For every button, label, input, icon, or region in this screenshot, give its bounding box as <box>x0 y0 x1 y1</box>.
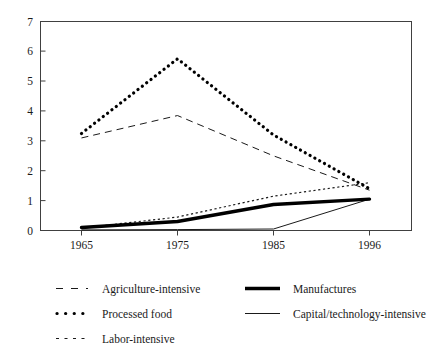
xtick-label-1975: 1975 <box>166 239 189 251</box>
ytick-label-5: 5 <box>27 75 33 87</box>
legend-label-manufactures: Manufactures <box>293 283 357 295</box>
series-processed-food <box>82 59 370 189</box>
series-labor-intensive <box>82 183 370 228</box>
x-axis-ticks <box>82 231 370 236</box>
ytick-label-1: 1 <box>27 195 33 207</box>
xtick-label-1996: 1996 <box>358 239 381 251</box>
line-chart: 0 1 2 3 4 5 6 7 1965 1975 1985 1996 <box>0 0 437 354</box>
xtick-label-1965: 1965 <box>70 239 93 251</box>
legend-item-manufactures: Manufactures <box>245 283 357 295</box>
series-agriculture-intensive <box>82 116 370 191</box>
ytick-label-2: 2 <box>27 165 33 177</box>
x-axis-labels: 1965 1975 1985 1996 <box>70 239 381 251</box>
legend-label-capital-technology-intensive: Capital/technology-intensive <box>293 308 426 321</box>
ytick-label-0: 0 <box>27 225 33 237</box>
legend-label-labor-intensive: Labor-intensive <box>102 333 175 345</box>
legend-item-capital-technology-intensive: Capital/technology-intensive <box>245 308 426 321</box>
chart-legend: Agriculture-intensive Manufactures Proce… <box>56 283 426 345</box>
xtick-label-1985: 1985 <box>262 239 285 251</box>
y-axis-ticks <box>41 22 46 231</box>
ytick-label-6: 6 <box>27 45 33 57</box>
ytick-label-7: 7 <box>27 16 33 28</box>
series-manufactures <box>82 199 370 227</box>
ytick-label-3: 3 <box>27 135 33 147</box>
legend-item-agriculture-intensive: Agriculture-intensive <box>56 283 200 296</box>
chart-figure: 0 1 2 3 4 5 6 7 1965 1975 1985 1996 <box>0 0 437 354</box>
legend-item-processed-food: Processed food <box>57 308 172 320</box>
legend-label-agriculture-intensive: Agriculture-intensive <box>102 283 200 296</box>
legend-label-processed-food: Processed food <box>102 308 172 320</box>
y-axis-labels: 0 1 2 3 4 5 6 7 <box>27 16 33 237</box>
series-group <box>82 59 370 230</box>
ytick-label-4: 4 <box>27 105 33 117</box>
legend-item-labor-intensive: Labor-intensive <box>56 333 175 345</box>
